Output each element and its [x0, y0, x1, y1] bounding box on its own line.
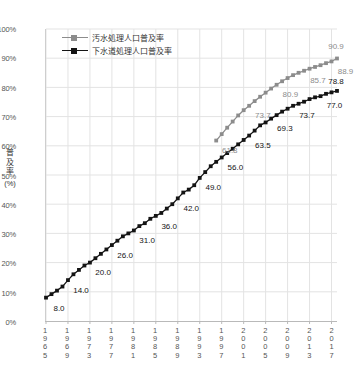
series-marker	[115, 239, 119, 243]
data-point-label: 42.0	[183, 203, 199, 212]
series-marker	[214, 139, 218, 143]
legend: 汚水処理人口普及率下水道処理人口普及率	[62, 31, 252, 57]
series-marker	[137, 224, 141, 228]
series-marker	[209, 164, 213, 168]
data-point-label: 77.0	[327, 101, 343, 110]
series-marker	[330, 90, 334, 94]
series-marker	[335, 57, 339, 61]
chart-container: 普及率 (%) 0%10%20%30%40%50%60%70%80%90%100…	[0, 0, 357, 386]
y-tick-label: 80%	[2, 83, 16, 92]
data-point-label: 49.0	[205, 183, 221, 192]
series-marker	[242, 108, 246, 112]
series-marker	[330, 60, 334, 64]
series-marker	[242, 138, 246, 142]
y-axis-title: 普及率 (%)	[3, 148, 17, 188]
data-point-label: 80.9	[283, 89, 299, 98]
data-point-label: 63.5	[255, 140, 271, 149]
x-tick-label: 1 9 7 3	[84, 327, 94, 360]
series-marker	[44, 296, 48, 300]
series-marker	[88, 261, 92, 265]
series-marker	[324, 61, 328, 65]
series-marker	[280, 110, 284, 114]
y-tick-label: 20%	[2, 259, 16, 268]
x-tick-label: 1 9 9 3	[194, 327, 204, 360]
series-marker	[253, 99, 257, 103]
data-point-label: 85.7	[310, 75, 326, 84]
x-tick-label: 2 0 1 3	[304, 327, 314, 360]
data-point-label: 36.0	[161, 221, 177, 230]
x-tick-label: 1 9 6 5	[40, 327, 50, 360]
series-marker	[214, 160, 218, 164]
series-marker	[72, 272, 76, 276]
series-marker	[126, 232, 130, 236]
series-marker	[313, 65, 317, 69]
series-marker	[308, 67, 312, 71]
y-tick-label: 30%	[2, 230, 16, 239]
series-marker	[253, 129, 257, 133]
series-marker	[286, 76, 290, 80]
series-marker	[225, 126, 229, 130]
x-tick-label: 1 9 9 7	[216, 327, 226, 360]
series-marker	[319, 63, 323, 67]
series-marker	[258, 95, 262, 99]
data-point-label: 73.7	[255, 111, 271, 120]
series-marker	[291, 104, 295, 108]
y-tick-label: 40%	[2, 200, 16, 209]
series-marker	[335, 89, 339, 93]
data-point-label: 8.0	[53, 303, 64, 312]
series-marker	[110, 243, 114, 247]
series-marker	[297, 71, 301, 75]
y-tick-label: 50%	[2, 171, 16, 180]
x-tick-label: 2 0 0 5	[260, 327, 270, 360]
series-line	[46, 91, 337, 298]
data-point-label: 69.3	[277, 123, 293, 132]
data-point-label: 20.0	[95, 268, 111, 277]
series-marker	[61, 285, 65, 289]
series-marker	[55, 289, 59, 293]
series-marker	[264, 121, 268, 125]
legend-item[interactable]: 下水道処理人口普及率	[62, 44, 252, 57]
legend-marker-icon	[62, 46, 88, 55]
series-marker	[319, 94, 323, 98]
series-marker	[275, 83, 279, 87]
series-marker	[203, 170, 207, 174]
series-marker	[143, 221, 147, 225]
series-marker	[297, 102, 301, 106]
series-lines	[46, 29, 337, 321]
legend-label: 汚水処理人口普及率	[88, 32, 164, 43]
y-tick-label: 90%	[2, 54, 16, 63]
x-tick-label: 1 9 6 9	[62, 327, 72, 360]
series-marker	[220, 156, 224, 160]
series-marker	[291, 73, 295, 77]
legend-item[interactable]: 汚水処理人口普及率	[62, 31, 252, 44]
x-tick-label: 1 9 8 9	[172, 327, 182, 360]
series-marker	[176, 196, 180, 200]
data-point-label: 73.7	[299, 111, 315, 120]
series-marker	[192, 183, 196, 187]
series-marker	[165, 207, 169, 211]
series-marker	[324, 92, 328, 96]
series-marker	[198, 176, 202, 180]
data-point-label: 90.9	[328, 41, 344, 50]
series-marker	[313, 95, 317, 99]
legend-label: 下水道処理人口普及率	[88, 45, 172, 56]
series-marker	[187, 188, 191, 192]
data-point-label: 14.0	[73, 285, 89, 294]
series-marker	[275, 113, 279, 117]
y-tick-label: 70%	[2, 112, 16, 121]
series-marker	[181, 191, 185, 195]
legend-marker-icon	[62, 33, 88, 42]
y-tick-label: 60%	[2, 142, 16, 151]
data-point-label: 26.0	[117, 250, 133, 259]
series-marker	[148, 217, 152, 221]
series-marker	[247, 104, 251, 108]
series-marker	[231, 120, 235, 124]
series-marker	[280, 79, 284, 83]
data-point-label: 88.9	[338, 66, 354, 75]
plot-area: 61.873.780.985.788.990.98.014.020.026.03…	[45, 29, 337, 322]
series-marker	[220, 132, 224, 136]
data-point-label: 31.0	[139, 236, 155, 245]
series-marker	[83, 264, 87, 268]
series-marker	[236, 114, 240, 118]
x-tick-label: 1 9 8 5	[150, 327, 160, 360]
